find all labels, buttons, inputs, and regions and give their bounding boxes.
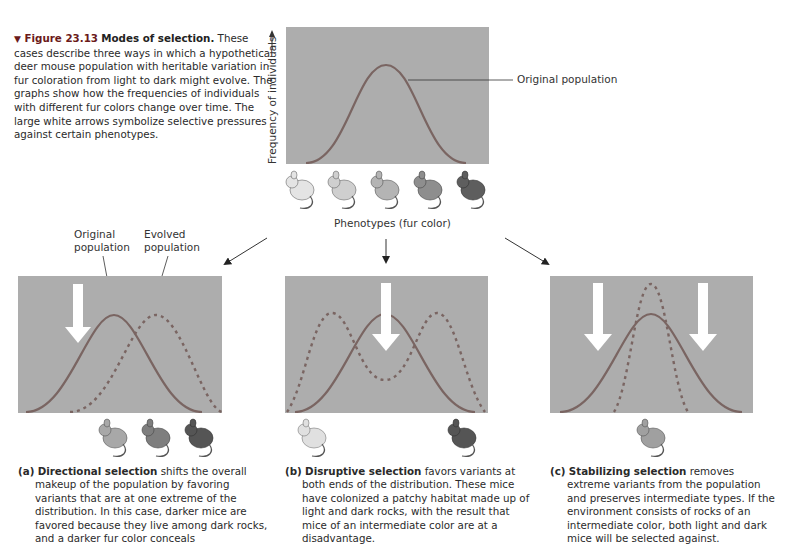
mouse-icon-c1 bbox=[637, 419, 665, 456]
panel-b-mouse-dark bbox=[444, 418, 484, 460]
mouse-icon-a1 bbox=[99, 419, 127, 456]
top-mouse-row bbox=[280, 170, 495, 212]
selection-arrow-icon-left bbox=[584, 283, 612, 351]
panel-a-original-curve bbox=[26, 315, 202, 412]
panel-a-evolved-curve bbox=[70, 315, 222, 412]
top-graph-panel bbox=[286, 27, 489, 164]
panel-c-evolved-curve bbox=[614, 284, 688, 412]
mouse-icon-2 bbox=[328, 171, 356, 208]
panel-c-description: (c) Stabilizing selection removes extrem… bbox=[550, 465, 780, 545]
panel-a-mouse-row bbox=[95, 418, 225, 460]
y-axis-label: Frequency of individuals bbox=[262, 28, 282, 168]
selection-arrow-icon-right bbox=[689, 283, 717, 351]
mouse-icon-5 bbox=[457, 171, 485, 208]
panel-c-mouse bbox=[633, 418, 673, 460]
mouse-icon-4 bbox=[414, 171, 442, 208]
mouse-icon-1 bbox=[286, 171, 314, 208]
curve-leader-line bbox=[408, 78, 518, 82]
mouse-icon-b1 bbox=[298, 419, 326, 456]
mouse-icon-b2 bbox=[448, 419, 476, 456]
panel-b-mouse-light bbox=[294, 418, 334, 460]
arrow-to-c bbox=[505, 238, 548, 264]
selection-arrow-icon bbox=[65, 284, 91, 343]
panel-a-description: (a) Directional selection shifts the ove… bbox=[18, 465, 268, 545]
panel-a-graph bbox=[18, 276, 222, 413]
mouse-icon-3 bbox=[371, 171, 399, 208]
y-axis-label-text: Frequency of individuals bbox=[266, 37, 278, 164]
x-axis-label: Phenotypes (fur color) bbox=[334, 217, 451, 229]
original-population-label: Original population bbox=[517, 73, 617, 85]
panel-b-graph bbox=[285, 276, 488, 413]
mouse-icon-a2 bbox=[142, 419, 170, 456]
panel-c-graph bbox=[550, 276, 753, 413]
panel-b-description: (b) Disruptive selection favors variants… bbox=[285, 465, 535, 545]
mouse-icon-a3 bbox=[185, 419, 213, 456]
axis-arrow-icon bbox=[269, 30, 275, 37]
panel-c-original-curve bbox=[560, 314, 742, 412]
